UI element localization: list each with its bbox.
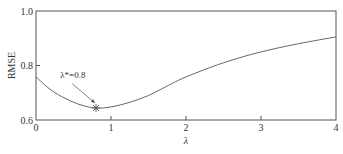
x-axis-label: λ (183, 135, 189, 146)
annotation-label: λ*=0.8 (60, 70, 86, 80)
x-tick-label: 3 (259, 122, 264, 133)
y-tick-label: 0.8 (21, 60, 34, 71)
y-axis-label: RMSE (6, 52, 17, 79)
x-axis-ticks: 01234 (34, 116, 339, 133)
plot-frame (36, 11, 336, 120)
annotation-arrow (72, 84, 95, 103)
x-tick-label: 0 (34, 122, 39, 133)
rmse-vs-lambda-chart: 01234 0.60.81.0 λ*=0.8 λ RMSE (0, 0, 343, 154)
x-tick-label: 2 (184, 122, 189, 133)
y-tick-label: 0.6 (21, 115, 34, 126)
y-tick-label: 1.0 (21, 6, 34, 17)
optimal-lambda-annotation: λ*=0.8 (60, 70, 100, 112)
plot-border (36, 11, 336, 120)
x-tick-label: 1 (109, 122, 114, 133)
y-axis-ticks: 0.60.81.0 (21, 6, 41, 126)
x-tick-label: 4 (334, 122, 339, 133)
